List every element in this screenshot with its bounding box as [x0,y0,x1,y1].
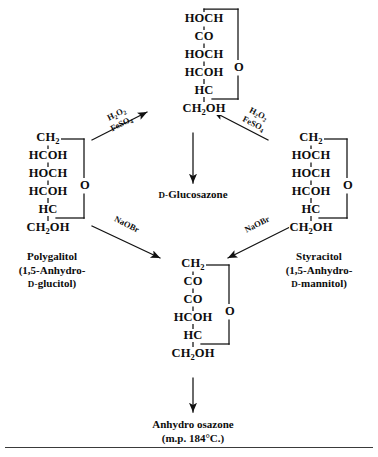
atom-label: CO [194,30,215,43]
caption-line: (1,5-Anhydro- [265,264,373,278]
atom-label: HC [194,84,215,97]
atom-label: HCOH [173,311,214,324]
reaction-scheme-diagram: HOCH CO HOCH HCOH HC CH2OH O CH2 HCOH HO… [0,0,378,457]
atom-label: CH2 [180,257,205,270]
formula-row: CH2 [0,131,96,148]
ring-oxygen-polygalitol: O [78,178,92,193]
atom-label: HC [38,203,59,216]
atom-label: CH2 [35,131,60,144]
caption-glucosazone: D-Glucosazone [131,188,255,203]
formula-row: CH2 [263,131,359,148]
formula-row: CH2 [131,257,255,274]
formula-row: HC [131,329,255,346]
caption-line-rest: mannitol) [301,277,347,289]
atom-label: HOCH [28,167,69,180]
atom-label: HC [301,203,322,216]
caption-line-rest: glucitol) [38,277,77,289]
ring-oxygen-styracitol: O [341,178,355,193]
atom-label: HOCH [184,12,225,25]
caption-anhydro-osazone: Anhydro osazone (m.p. 184°C.) [131,418,255,445]
smallcaps-prefix: D- [158,190,168,200]
formula-row: HC [142,84,266,101]
atom-label: CH2OH [171,347,216,360]
reagent-label-left-lower: NaOBr [105,210,149,239]
caption-line: D-mannitol) [265,277,373,292]
formula-row: HOCH [263,149,359,166]
formula-row: HOCH [142,48,266,65]
caption-styracitol: Styracitol (1,5-Anhydro- D-mannitol) [265,250,373,292]
atom-label: CH2OH [26,221,71,234]
atom-label: HOCH [291,167,332,180]
caption-line: (m.p. 184°C.) [131,432,255,446]
formula-row: HCOH [142,66,266,83]
caption-line: Styracitol [265,250,373,264]
formula-row: CH2OH [0,221,96,238]
atom-label: CO [183,293,204,306]
ring-oxygen-glucosazone: O [232,60,246,75]
caption-line: (1,5-Anhydro- [0,264,104,278]
formula-row: CH2OH [131,347,255,364]
formula-row: CO [131,275,255,292]
formula-row: CH2OH [263,221,359,238]
atom-label: CH2OH [289,221,334,234]
caption-line-rest: Glucosazone [168,188,227,200]
atom-label: HCOH [184,66,225,79]
bottom-divider [5,447,373,448]
smallcaps-prefix: D- [28,279,38,289]
smallcaps-prefix: D- [291,279,301,289]
caption-line: Anhydro osazone [131,418,255,432]
atom-label: HOCH [184,48,225,61]
atom-label: HCOH [28,185,69,198]
formula-row: HC [0,203,96,220]
caption-line: D-glucitol) [0,277,104,292]
formula-row: HOCH [142,12,266,29]
atom-label: HC [183,329,204,342]
atom-label: HCOH [28,149,69,162]
ring-oxygen-anhydro-osazone: O [223,304,237,319]
atom-label: HCOH [291,185,332,198]
atom-label: CH2OH [182,102,227,115]
atom-label: CO [183,275,204,288]
atom-label: HOCH [291,149,332,162]
reagent-label-left-upper: H2O2 FeSO4 [94,99,143,139]
caption-line: D-Glucosazone [131,188,255,203]
formula-row: CO [142,30,266,47]
atom-label: CH2 [298,131,323,144]
formula-row: HCOH [0,149,96,166]
caption-polygalitol: Polygalitol (1,5-Anhydro- D-glucitol) [0,250,104,292]
caption-line: Polygalitol [0,250,104,264]
reagent-line: NaOBr [105,210,149,239]
